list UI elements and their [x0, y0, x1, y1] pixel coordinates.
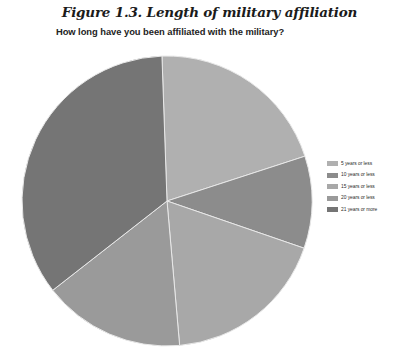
legend-item[interactable]: 15 years or less [327, 181, 417, 192]
figure-container: Figure 1.3. Length of military affiliati… [0, 0, 419, 361]
chart-legend: 5 years or less 10 years or less 15 year… [327, 158, 417, 216]
legend-item[interactable]: 10 years or less [327, 170, 417, 181]
legend-item[interactable]: 21 years or more [327, 204, 417, 215]
legend-item-label: 15 years or less [341, 184, 375, 190]
legend-swatch-icon [327, 161, 338, 166]
legend-swatch-icon [327, 196, 338, 201]
legend-swatch-icon [327, 184, 338, 189]
legend-item-label: 5 years or less [341, 161, 372, 167]
legend-item-label: 20 years or less [341, 195, 375, 201]
pie-slice-group [22, 56, 312, 346]
legend-item[interactable]: 5 years or less [327, 158, 417, 169]
legend-item-label: 21 years or more [341, 207, 377, 213]
legend-swatch-icon [327, 207, 338, 212]
legend-item[interactable]: 20 years or less [327, 193, 417, 204]
legend-item-label: 10 years or less [341, 172, 375, 178]
legend-swatch-icon [327, 173, 338, 178]
